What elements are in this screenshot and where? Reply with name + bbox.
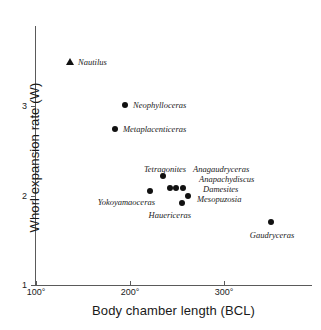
x-tick-100 [36, 281, 37, 286]
label-gaudryceras: Gaudryceras [250, 230, 294, 240]
x-axis-title: Body chamber length (BCL) [35, 303, 312, 318]
x-axis-line [35, 285, 312, 286]
y-tick-label-2: 2 [11, 192, 27, 201]
label-metaplacenticeras: Metaplacenticeras [123, 124, 186, 134]
x-tick-200 [130, 281, 131, 286]
label-mesopuzosia: Mesopuzosia [197, 194, 241, 204]
x-tick-label-300: 300° [204, 288, 244, 297]
data-point-mesopuzosia [185, 193, 191, 199]
label-damesites: Damesites [203, 184, 238, 194]
label-nautilus: Nautilus [78, 57, 107, 67]
label-hauericeras: Hauericeras [149, 210, 192, 220]
label-anagaudryceras: Anagaudryceras [193, 164, 249, 174]
label-anapachydiscus: Anapachydiscus [199, 174, 254, 184]
x-tick-300 [224, 281, 225, 286]
data-point-neophylloceras [122, 102, 128, 108]
data-point-hauericeras [179, 200, 185, 206]
data-point-anapachydiscus [173, 185, 179, 191]
label-tetragonites: Tetragonites [144, 164, 186, 174]
x-tick-label-100: 100° [16, 288, 56, 297]
label-neophylloceras: Neophylloceras [133, 100, 186, 110]
x-tick-label-200: 200° [110, 288, 150, 297]
y-axis-title: Whorl expansion rate (W) [27, 38, 42, 278]
label-yokoyamaoceras: Yokoyamaoceras [98, 197, 155, 207]
scatter-chart: 3 2 1 100° 200° 300° Body chamber length… [0, 0, 321, 330]
y-tick-label-3: 3 [11, 102, 27, 111]
data-point-yokoyamaoceras [147, 188, 153, 194]
data-point-gaudryceras [268, 219, 274, 225]
data-point-nautilus [66, 58, 74, 65]
data-point-damesites [180, 185, 186, 191]
data-point-metaplacenticeras [112, 126, 118, 132]
